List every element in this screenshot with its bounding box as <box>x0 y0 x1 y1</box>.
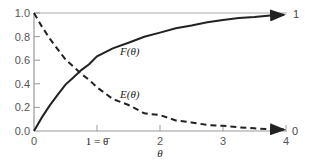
y-tick-label: 1.0 <box>15 7 30 19</box>
chart-canvas: 1.0 0.8 0.6 0.4 0.2 0.0 0 1 = θ̄ 2 3 4 θ… <box>0 0 310 168</box>
x-tick-label: 2 <box>157 135 163 147</box>
x-tick-label: 4 <box>283 135 289 147</box>
series-F-label: F(θ) <box>119 45 140 58</box>
series-F-curve <box>34 15 284 131</box>
x-axis-title: θ <box>157 147 163 159</box>
y-tick-label: 0.8 <box>15 31 30 43</box>
y-tick-label: 0.2 <box>15 101 30 113</box>
series-E-curve <box>34 13 284 130</box>
series-E-label: E(θ) <box>119 88 140 101</box>
x-tick-label: 3 <box>220 135 226 147</box>
asymptote-label-bottom: 0 <box>292 125 298 137</box>
y-ticks <box>34 13 40 107</box>
x-tick-label-mean: 1 = θ̄ <box>86 135 110 147</box>
y-tick-label: 0.4 <box>15 78 30 90</box>
asymptote-label-top: 1 <box>293 8 299 20</box>
y-tick-label: 0.6 <box>15 54 30 66</box>
x-tick-label: 0 <box>31 135 37 147</box>
x-ticks <box>97 125 286 131</box>
y-tick-label: 0.0 <box>15 125 30 137</box>
